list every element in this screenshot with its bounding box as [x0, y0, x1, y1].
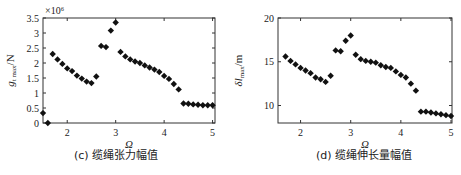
data-point-marker	[74, 72, 80, 78]
data-point-marker	[171, 81, 177, 87]
y-multiplier-label: ×10⁶	[45, 5, 65, 16]
data-point-marker	[175, 86, 181, 92]
x-tick-label: 5	[448, 127, 453, 138]
x-tick-label: 3	[113, 127, 118, 138]
data-point-marker	[342, 38, 348, 44]
data-point-marker	[438, 111, 444, 117]
data-point-marker	[88, 80, 94, 86]
chart-panel-d: 2345101520Ωδlmax/m (d) 缆绳伸长量幅值	[230, 0, 461, 175]
y-tick-label: 3.5	[27, 13, 40, 24]
data-point-marker	[49, 51, 55, 57]
data-point-marker	[79, 75, 85, 81]
data-point-marker	[363, 58, 369, 64]
data-point-marker	[368, 59, 374, 65]
chart-caption-c: (c) 缆绳张力幅值	[74, 146, 158, 162]
data-point-marker	[83, 78, 89, 84]
y-axis-label: gt max/N	[4, 54, 18, 86]
data-point-marker	[428, 109, 434, 115]
data-point-marker	[112, 19, 118, 25]
x-tick-label: 5	[210, 127, 215, 138]
y-tick-label: 3	[34, 28, 39, 39]
data-point-marker	[161, 73, 167, 79]
data-point-marker	[54, 56, 60, 62]
plot-frame	[43, 18, 215, 123]
data-point-marker	[166, 76, 172, 82]
data-point-marker	[423, 108, 429, 114]
data-point-marker	[312, 74, 318, 80]
data-point-marker	[103, 44, 109, 50]
y-tick-label: 1	[34, 88, 39, 99]
y-axis-label: δlmax/m	[232, 54, 246, 86]
y-tick-label: 1.5	[27, 73, 40, 84]
y-tick-label: 2	[34, 58, 39, 69]
y-tick-label: 15	[264, 56, 274, 67]
data-point-marker	[93, 73, 99, 79]
data-point-marker	[348, 32, 354, 38]
data-point-marker	[413, 87, 419, 93]
data-point-marker	[433, 110, 439, 116]
data-point-marker	[117, 49, 123, 55]
data-point-marker	[443, 112, 449, 118]
x-tick-label: 2	[298, 127, 303, 138]
x-tick-label: 4	[162, 127, 167, 138]
data-point-marker	[353, 52, 359, 58]
data-point-marker	[358, 56, 364, 62]
data-point-marker	[185, 101, 191, 107]
y-tick-label: 10	[264, 100, 274, 111]
data-point-marker	[282, 53, 288, 59]
y-tick-label: 20	[264, 13, 274, 24]
data-point-marker	[195, 102, 201, 108]
x-tick-label: 2	[65, 127, 70, 138]
chart-caption-d: (d) 缆绳伸长量幅值	[316, 146, 412, 162]
data-point-marker	[327, 73, 333, 79]
data-point-marker	[448, 113, 454, 119]
data-point-marker	[98, 43, 104, 49]
data-point-marker	[122, 53, 128, 59]
data-point-marker	[383, 64, 389, 70]
y-tick-label: 0.5	[27, 103, 40, 114]
data-point-marker	[108, 27, 114, 33]
data-point-marker	[40, 110, 46, 116]
data-point-marker	[292, 61, 298, 67]
y-tick-label: 2.5	[27, 43, 40, 54]
data-point-marker	[332, 47, 338, 53]
data-point-marker	[287, 58, 293, 64]
data-point-marker	[59, 61, 65, 67]
data-point-marker	[337, 48, 343, 54]
data-point-marker	[408, 80, 414, 86]
data-point-marker	[388, 65, 394, 71]
data-point-marker	[45, 120, 51, 126]
chart-panel-c: 234500.511.522.533.5×10⁶Ωgt max/N (c) 缆绳…	[0, 0, 230, 175]
y-tick-label: 0	[34, 118, 39, 129]
x-tick-label: 4	[398, 127, 403, 138]
x-tick-label: 3	[348, 127, 353, 138]
data-point-marker	[393, 68, 399, 74]
